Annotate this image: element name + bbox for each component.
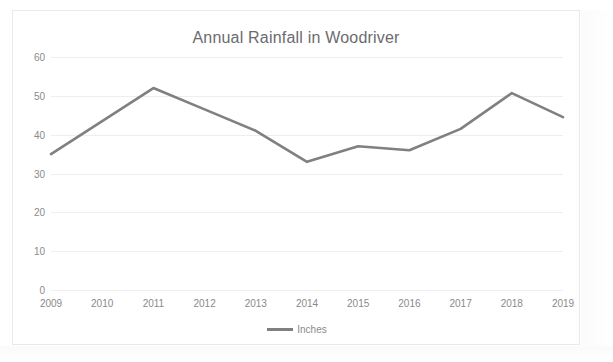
series-line-inches [51,88,563,162]
y-axis: 0102030405060 [13,57,45,290]
y-axis-tick-label: 50 [17,90,45,101]
x-axis-tick-label: 2011 [143,298,165,309]
y-axis-tick-label: 30 [17,168,45,179]
chart-title: Annual Rainfall in Woodriver [13,29,579,47]
legend-label-inches: Inches [297,324,326,335]
x-axis-tick-label: 2013 [245,298,267,309]
plot-area [51,57,563,290]
page-edge-shadow-right [581,10,613,350]
y-axis-tick-label: 60 [17,52,45,63]
y-axis-tick-label: 0 [17,285,45,296]
x-axis: 2009201020112012201320142015201620172018… [51,298,563,316]
y-axis-tick-label: 20 [17,207,45,218]
x-axis-tick-label: 2010 [91,298,113,309]
chart-container: Annual Rainfall in Woodriver 01020304050… [12,10,580,345]
x-axis-tick-label: 2018 [501,298,523,309]
x-axis-tick-label: 2012 [193,298,215,309]
chart-legend: Inches [13,324,581,335]
x-axis-tick-label: 2019 [552,298,574,309]
page-edge-shadow-bottom [0,346,613,362]
y-axis-tick-label: 10 [17,246,45,257]
legend-swatch-inches [267,328,293,331]
scan-artifact-strip [0,0,613,10]
x-axis-tick-label: 2014 [296,298,318,309]
line-series-inches [51,57,563,290]
x-axis-tick-label: 2016 [398,298,420,309]
x-axis-tick-label: 2017 [449,298,471,309]
x-axis-tick-label: 2015 [347,298,369,309]
gridline [51,290,563,291]
x-axis-tick-label: 2009 [40,298,62,309]
y-axis-tick-label: 40 [17,129,45,140]
